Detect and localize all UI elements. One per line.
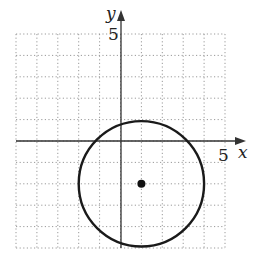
y-axis-arrow-icon [117, 10, 125, 21]
y-tick-label-5: 5 [108, 24, 119, 44]
x-axis-label: x [238, 142, 248, 162]
coordinate-plane: y 5 5 x [0, 0, 265, 258]
y-axis-label: y [105, 3, 116, 23]
center-point [137, 180, 145, 188]
x-tick-label-5: 5 [218, 145, 229, 165]
